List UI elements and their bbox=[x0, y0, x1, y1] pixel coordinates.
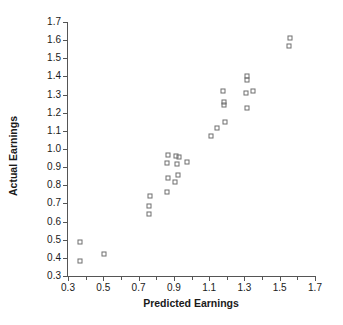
y-axis-tick-label: 1.7 bbox=[47, 17, 61, 27]
x-axis-minor-tick bbox=[262, 276, 263, 280]
y-axis-tick bbox=[63, 76, 68, 77]
data-point bbox=[287, 43, 292, 48]
data-point bbox=[176, 173, 181, 178]
x-axis-minor-tick bbox=[297, 276, 298, 280]
y-axis-tick bbox=[63, 131, 68, 132]
y-axis-tick bbox=[63, 95, 68, 96]
data-point bbox=[172, 179, 177, 184]
y-axis-tick bbox=[63, 258, 68, 259]
data-point bbox=[244, 106, 249, 111]
data-point bbox=[243, 91, 248, 96]
data-point bbox=[165, 176, 170, 181]
x-axis-title: Predicted Earnings bbox=[67, 297, 315, 309]
y-axis-tick bbox=[63, 58, 68, 59]
y-axis-tick-label: 0.3 bbox=[47, 271, 61, 281]
y-axis-tick bbox=[63, 113, 68, 114]
data-point bbox=[102, 252, 107, 257]
data-point bbox=[215, 126, 220, 131]
data-point bbox=[185, 160, 190, 165]
x-axis-tick bbox=[315, 276, 316, 281]
y-axis-tick-label: 1.5 bbox=[47, 53, 61, 63]
data-point bbox=[146, 204, 151, 209]
x-axis-minor-tick bbox=[156, 276, 157, 280]
y-axis-tick bbox=[63, 185, 68, 186]
y-axis-tick-label: 0.4 bbox=[47, 253, 61, 263]
y-axis-tick-label: 1.0 bbox=[47, 144, 61, 154]
data-point bbox=[165, 160, 170, 165]
x-axis-minor-tick bbox=[121, 276, 122, 280]
x-axis-tick-label: 0.7 bbox=[132, 283, 146, 293]
x-axis-minor-tick bbox=[86, 276, 87, 280]
y-axis-tick-label: 1.1 bbox=[47, 126, 61, 136]
x-axis-tick bbox=[244, 276, 245, 281]
y-axis-title: Actual Earnings bbox=[7, 96, 19, 216]
x-axis-tick-label: 0.3 bbox=[61, 283, 75, 293]
data-point bbox=[175, 162, 180, 167]
x-axis-tick bbox=[280, 276, 281, 281]
y-axis-tick-label: 0.5 bbox=[47, 235, 61, 245]
y-axis-tick-label: 0.8 bbox=[47, 180, 61, 190]
y-axis-tick-label: 1.4 bbox=[47, 71, 61, 81]
data-point bbox=[244, 77, 249, 82]
plot-area: 0.30.40.50.60.70.80.91.01.11.21.31.41.51… bbox=[67, 22, 315, 277]
data-point bbox=[287, 35, 292, 40]
x-axis-tick bbox=[209, 276, 210, 281]
y-axis-tick-label: 0.7 bbox=[47, 198, 61, 208]
data-point bbox=[78, 258, 83, 263]
data-point bbox=[166, 153, 171, 158]
x-axis-tick bbox=[174, 276, 175, 281]
x-axis-minor-tick bbox=[227, 276, 228, 280]
y-axis-tick bbox=[63, 222, 68, 223]
x-axis-tick bbox=[103, 276, 104, 281]
x-axis-tick-label: 1.5 bbox=[273, 283, 287, 293]
x-axis-minor-tick bbox=[192, 276, 193, 280]
y-axis-tick bbox=[63, 167, 68, 168]
y-axis-tick bbox=[63, 40, 68, 41]
scatter-chart: 0.30.40.50.60.70.80.91.01.11.21.31.41.51… bbox=[0, 0, 343, 325]
data-point bbox=[221, 102, 226, 107]
y-axis-tick bbox=[63, 203, 68, 204]
y-axis-tick bbox=[63, 240, 68, 241]
y-axis-tick-label: 0.6 bbox=[47, 217, 61, 227]
data-point bbox=[148, 194, 153, 199]
data-point bbox=[78, 239, 83, 244]
x-axis-tick-label: 1.3 bbox=[237, 283, 251, 293]
data-point bbox=[250, 88, 255, 93]
x-axis-tick-label: 1.1 bbox=[202, 283, 216, 293]
y-axis-tick-label: 1.3 bbox=[47, 90, 61, 100]
x-axis-tick bbox=[68, 276, 69, 281]
x-axis-tick-label: 1.7 bbox=[308, 283, 322, 293]
data-point bbox=[220, 88, 225, 93]
y-axis-tick bbox=[63, 149, 68, 150]
x-axis-tick-label: 0.9 bbox=[167, 283, 181, 293]
y-axis-tick-label: 0.9 bbox=[47, 162, 61, 172]
data-point bbox=[165, 189, 170, 194]
data-point bbox=[223, 119, 228, 124]
data-point bbox=[208, 134, 213, 139]
x-axis-tick bbox=[139, 276, 140, 281]
data-point bbox=[176, 155, 181, 160]
y-axis-tick-label: 1.6 bbox=[47, 35, 61, 45]
x-axis-tick-label: 0.5 bbox=[96, 283, 110, 293]
y-axis-tick bbox=[63, 22, 68, 23]
data-point bbox=[146, 212, 151, 217]
y-axis-tick-label: 1.2 bbox=[47, 108, 61, 118]
